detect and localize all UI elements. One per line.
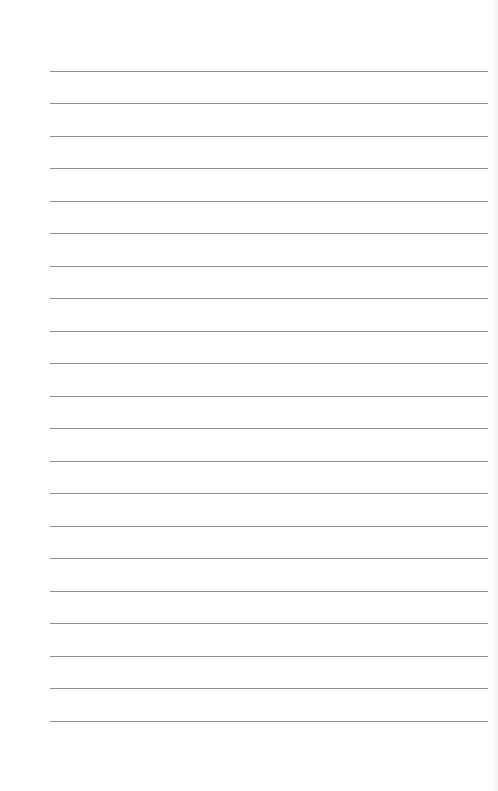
- ruled-line: [50, 461, 488, 462]
- ruled-line: [50, 71, 488, 72]
- ruled-line: [50, 396, 488, 397]
- ruled-line: [50, 623, 488, 624]
- ruled-line: [50, 363, 488, 364]
- ruled-line: [50, 103, 488, 104]
- lined-paper-page: [0, 0, 498, 791]
- ruled-line: [50, 591, 488, 592]
- ruled-line: [50, 493, 488, 494]
- ruled-line: [50, 266, 488, 267]
- ruled-line: [50, 721, 488, 722]
- ruled-line: [50, 428, 488, 429]
- ruled-line: [50, 233, 488, 234]
- page-edge-shadow: [492, 0, 498, 791]
- ruled-line: [50, 656, 488, 657]
- ruled-line: [50, 331, 488, 332]
- ruled-line: [50, 168, 488, 169]
- ruled-line: [50, 201, 488, 202]
- ruled-line: [50, 558, 488, 559]
- ruled-line: [50, 136, 488, 137]
- ruled-line: [50, 526, 488, 527]
- ruled-line: [50, 688, 488, 689]
- ruled-line: [50, 298, 488, 299]
